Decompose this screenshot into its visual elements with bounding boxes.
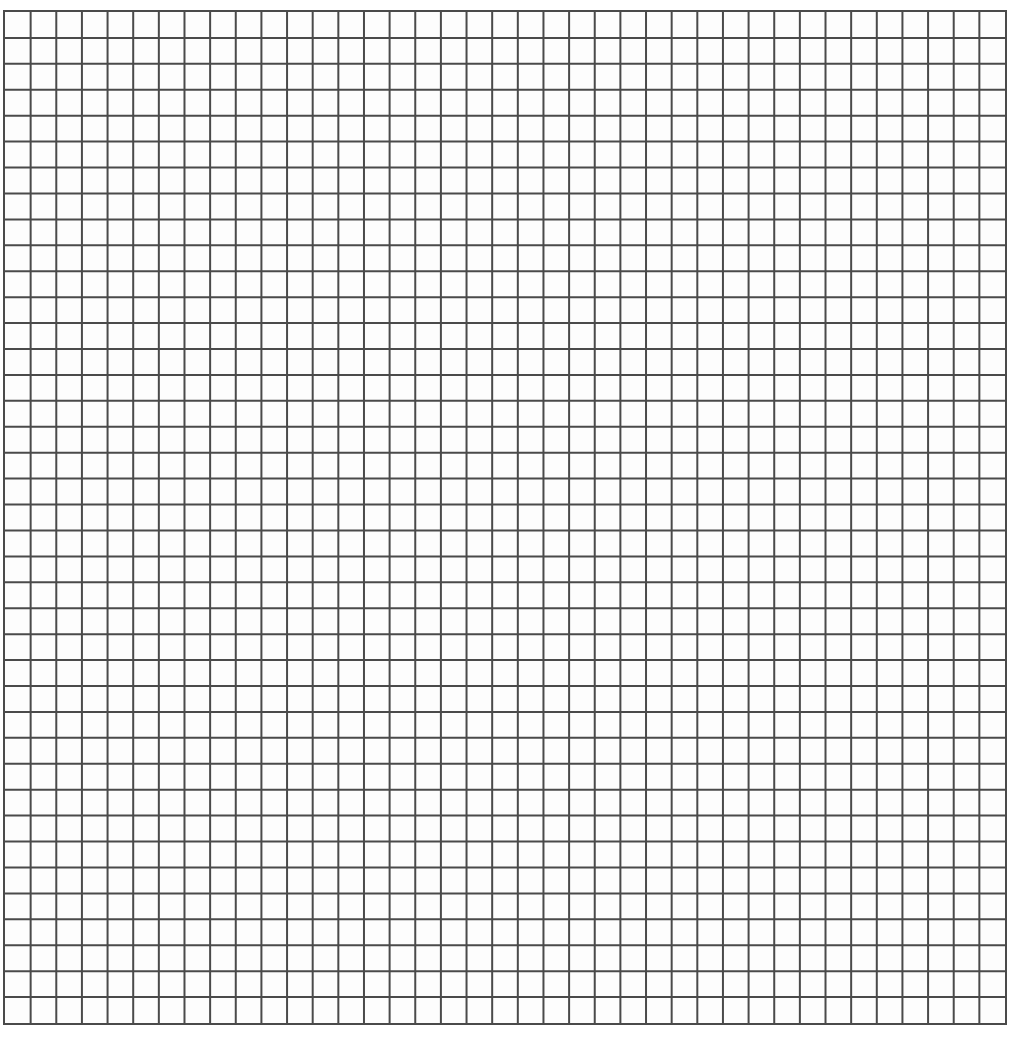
grid-lines (5, 12, 1005, 1023)
graph-paper-grid (3, 10, 1007, 1025)
